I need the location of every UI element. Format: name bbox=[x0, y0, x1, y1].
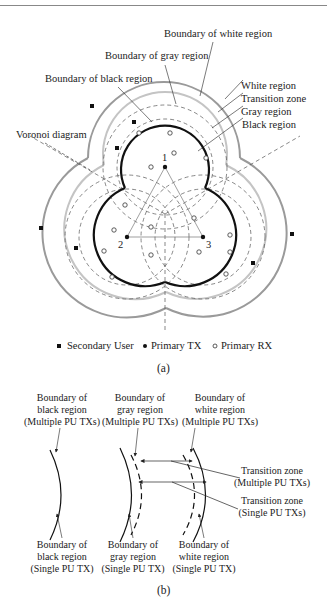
figure-a: 1 2 3 bbox=[16, 28, 307, 375]
svg-text:gray region: gray region bbox=[110, 551, 156, 562]
svg-text:Boundary of: Boundary of bbox=[115, 392, 166, 403]
bottom-leaders bbox=[57, 514, 204, 538]
svg-text:(Multiple PU TXs): (Multiple PU TXs) bbox=[24, 416, 100, 428]
label-transition-zone: Transition zone bbox=[241, 93, 307, 104]
svg-text:white region: white region bbox=[195, 404, 245, 415]
svg-text:white region: white region bbox=[179, 551, 229, 562]
svg-text:(Single PU TX): (Single PU TX) bbox=[101, 563, 164, 575]
primary-rx-legend-icon bbox=[213, 344, 217, 348]
svg-text:Boundary of: Boundary of bbox=[37, 392, 88, 403]
svg-text:Transition zone: Transition zone bbox=[241, 495, 304, 506]
svg-text:Transition zone: Transition zone bbox=[241, 465, 304, 476]
primary-tx-2 bbox=[125, 235, 129, 239]
svg-text:black region: black region bbox=[37, 551, 87, 562]
tx-label-3: 3 bbox=[206, 239, 211, 250]
svg-text:(Single PU TX): (Single PU TX) bbox=[30, 563, 93, 575]
svg-text:Boundary of: Boundary of bbox=[108, 539, 159, 550]
svg-text:Boundary of: Boundary of bbox=[179, 539, 230, 550]
primary-tx-legend-icon bbox=[143, 344, 147, 348]
legend: Secondary User Primary TX Primary RX bbox=[57, 340, 272, 351]
diagram-canvas: 1 2 3 bbox=[0, 0, 327, 608]
label-boundary-white: Boundary of white region bbox=[164, 28, 273, 39]
legend-primary-rx: Primary RX bbox=[221, 340, 272, 351]
label-white-region: White region bbox=[241, 80, 297, 91]
tx-label-2: 2 bbox=[118, 239, 123, 250]
bottom-labels: Boundary of black region (Single PU TX) … bbox=[30, 539, 235, 575]
gray-boundary-arc-single bbox=[131, 455, 142, 535]
label-voronoi: Voronoi diagram bbox=[16, 129, 87, 140]
svg-text:(Single PU TX): (Single PU TX) bbox=[172, 563, 235, 575]
tx-label-1: 1 bbox=[162, 152, 167, 163]
tx-triangle bbox=[127, 167, 203, 237]
secondary-user-legend-icon bbox=[57, 344, 61, 348]
gray-boundary-arc-multiple bbox=[120, 448, 132, 542]
label-boundary-black: Boundary of black region bbox=[45, 73, 153, 84]
white-boundary-arc-single bbox=[183, 455, 195, 535]
label-leaders bbox=[45, 42, 243, 170]
svg-text:Boundary of: Boundary of bbox=[195, 392, 246, 403]
caption-a: (a) bbox=[157, 362, 170, 375]
caption-b: (b) bbox=[157, 584, 171, 597]
svg-text:black region: black region bbox=[37, 404, 87, 415]
top-labels: Boundary of black region (Multiple PU TX… bbox=[24, 392, 258, 428]
svg-text:(Multiple PU TXs): (Multiple PU TXs) bbox=[102, 416, 178, 428]
figure-b: Boundary of black region (Multiple PU TX… bbox=[24, 392, 310, 597]
label-black-region: Black region bbox=[242, 119, 297, 130]
legend-primary-tx: Primary TX bbox=[151, 340, 202, 351]
legend-secondary-user: Secondary User bbox=[67, 340, 134, 351]
label-gray-region: Gray region bbox=[241, 106, 292, 117]
label-boundary-gray: Boundary of gray region bbox=[105, 50, 209, 61]
right-labels: Transition zone (Multiple PU TXs) Transi… bbox=[234, 465, 310, 519]
top-leaders bbox=[56, 428, 195, 456]
primary-tx-3 bbox=[201, 235, 205, 239]
svg-text:(Multiple PU TXs): (Multiple PU TXs) bbox=[234, 477, 310, 489]
svg-text:(Multiple PU TXs): (Multiple PU TXs) bbox=[182, 416, 258, 428]
svg-text:Boundary of: Boundary of bbox=[37, 539, 88, 550]
svg-text:gray region: gray region bbox=[117, 404, 163, 415]
svg-text:(Single PU TXs): (Single PU TXs) bbox=[238, 507, 305, 519]
primary-tx-1 bbox=[163, 165, 167, 169]
